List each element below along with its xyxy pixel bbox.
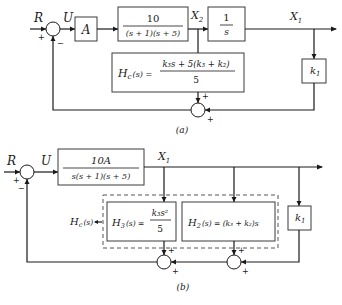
arrow-icon	[317, 165, 323, 170]
forward-denominator: s(s + 1)(s + 5)	[72, 172, 131, 181]
sum3-plus-top-b: +	[238, 246, 245, 255]
sum1-minus-sign-a: −	[57, 39, 64, 48]
arrow-icon	[312, 54, 317, 59]
block-diagram-canvas: R + − U A 10 (s + 1)(s + 5) X2 1 s	[0, 0, 342, 305]
integrator-denominator: s	[224, 27, 229, 37]
error-signal-label-b: U	[41, 154, 52, 168]
sum2-plus-top-a: +	[202, 92, 209, 101]
arrow-icon	[297, 201, 302, 206]
compensator-numerator: k₃s + 5(k₃ + k₂)	[162, 59, 229, 69]
arrow-icon	[25, 179, 30, 184]
sum2-plus-bottom-b: +	[172, 267, 179, 276]
compensator-lhs: Hc(s) =	[117, 67, 152, 81]
arrow-icon	[171, 260, 176, 265]
sum1-plus-sign-a: +	[38, 33, 45, 42]
h3-denominator: 5	[157, 224, 163, 234]
amplifier-gain-label: A	[81, 23, 91, 37]
arrow-icon	[331, 27, 337, 32]
arrow-icon	[113, 27, 118, 32]
arrow-icon	[205, 108, 210, 113]
arrow-icon	[70, 27, 75, 32]
arrow-icon	[196, 98, 201, 103]
plant-denominator: (s + 1)(s + 5)	[126, 29, 180, 38]
sum1-minus-sign-b: −	[18, 184, 25, 193]
input-signal-label-b: R	[6, 154, 16, 168]
plant-numerator: 10	[147, 13, 160, 24]
arrow-icon	[51, 36, 56, 41]
x1-signal-label-b: X1	[157, 150, 170, 165]
diagram-b: R + − U 10A s(s + 1)(s + 5) X1 Hc(s)	[4, 149, 323, 292]
summing-junction-a2	[191, 103, 205, 117]
arrow-icon	[232, 197, 237, 202]
forward-numerator: 10A	[91, 155, 111, 166]
summing-junction-b1	[20, 165, 34, 179]
summing-junction-a1	[46, 22, 60, 36]
error-signal-label-a: U	[63, 11, 74, 25]
caption-b: (b)	[177, 282, 190, 292]
compensator-denominator: 5	[193, 75, 199, 85]
arrow-icon	[203, 27, 208, 32]
arrow-icon	[41, 27, 46, 32]
x1-signal-label-a: X1	[289, 10, 302, 25]
summing-junction-b3	[227, 255, 241, 269]
arrow-icon	[232, 250, 237, 255]
arrow-icon	[162, 250, 167, 255]
arrow-icon	[241, 260, 246, 265]
sum3-plus-bottom-b: +	[242, 267, 249, 276]
hc-group-label: Hc(s)	[69, 216, 93, 229]
h3-numerator: k₃s²	[152, 208, 169, 218]
integrator-numerator: 1	[223, 12, 229, 23]
arrow-icon	[53, 170, 58, 175]
arrow-icon	[15, 170, 20, 175]
diagram-a: R + − U A 10 (s + 1)(s + 5) X2 1 s	[30, 7, 337, 135]
arrow-icon	[162, 197, 167, 202]
summing-junction-b2	[157, 255, 171, 269]
arrow-icon	[94, 220, 98, 224]
x2-signal-label: X2	[190, 9, 204, 24]
input-signal-label-a: R	[33, 11, 43, 25]
sum2-plus-right-a: +	[207, 115, 214, 124]
sum2-plus-top-b: +	[168, 246, 175, 255]
caption-a: (a)	[176, 125, 189, 135]
